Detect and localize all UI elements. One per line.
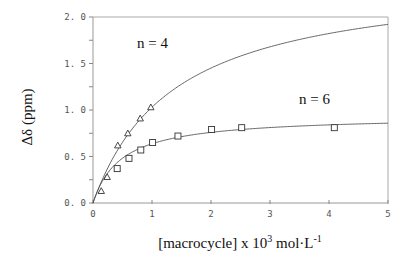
square-marker [126, 155, 132, 161]
y-tick-label: 0. 5 [64, 152, 86, 162]
square-marker [331, 125, 337, 131]
titration-chart: 0. 00. 51. 01. 52. 0012345 n = 4 n = 6 Δ… [0, 0, 406, 274]
triangle-marker [137, 115, 143, 121]
square-marker [138, 147, 144, 153]
y-tick-label: 2. 0 [64, 12, 86, 22]
plot-axes: 0. 00. 51. 01. 52. 0012345 [64, 12, 390, 219]
square-marker [175, 133, 181, 139]
triangle-marker [125, 130, 131, 136]
square-marker [150, 140, 156, 146]
y-tick-label: 1. 5 [64, 59, 86, 69]
data-markers [98, 104, 337, 193]
triangle-marker [148, 104, 154, 110]
square-marker [114, 166, 120, 172]
fit-curve [93, 123, 388, 203]
x-tick-label: 0 [90, 209, 95, 219]
annotation-n6: n = 6 [299, 91, 330, 107]
square-marker [239, 125, 245, 131]
square-marker [209, 127, 215, 133]
annotation-n4: n = 4 [137, 35, 168, 51]
x-tick-label: 5 [385, 209, 390, 219]
fit-curves [93, 24, 388, 203]
fit-curve [93, 24, 388, 203]
x-tick-label: 4 [326, 209, 331, 219]
y-axis-label: Δδ (ppm) [19, 88, 36, 145]
y-tick-label: 1. 0 [64, 105, 86, 115]
x-tick-label: 2 [208, 209, 213, 219]
triangle-marker [115, 142, 121, 148]
x-axis-label: [macrocycle] x 103 mol·L-1 [158, 233, 322, 251]
y-tick-label: 0. 0 [64, 198, 86, 208]
x-tick-label: 3 [267, 209, 272, 219]
x-tick-label: 1 [149, 209, 154, 219]
